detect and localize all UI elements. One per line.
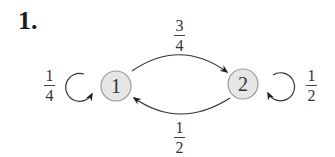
prob-2-to-1: 1 2 [174,120,185,155]
fraction-bar [174,35,185,36]
fraction-bar [306,85,317,86]
prob-1-to-1: 1 4 [44,68,55,103]
state-node-2-label: 2 [228,69,258,99]
fraction-bar [174,137,185,138]
denominator: 4 [46,88,54,103]
self-loop-2-arrow [268,73,295,101]
edge-1-to-2-arrow [132,55,227,72]
numerator: 1 [308,68,316,83]
edge-2-to-1-arrow [134,98,230,114]
numerator: 1 [176,120,184,135]
fraction-bar [44,85,55,86]
prob-1-to-2: 3 4 [174,18,185,53]
prob-2-to-2: 1 2 [306,68,317,103]
numerator: 1 [46,68,54,83]
denominator: 2 [176,140,184,155]
state-node-1-label: 1 [101,71,131,101]
denominator: 2 [308,88,316,103]
denominator: 4 [176,38,184,53]
numerator: 3 [176,18,184,33]
self-loop-1-arrow [66,73,92,101]
